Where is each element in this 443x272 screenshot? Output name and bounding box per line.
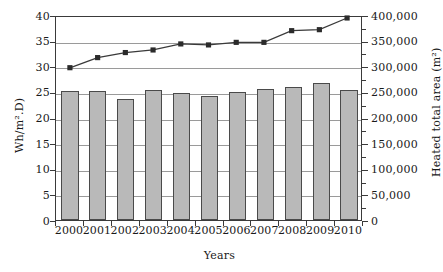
line-marker-2004 xyxy=(178,41,183,46)
right-minor-tick xyxy=(362,29,366,30)
right-tick-mark xyxy=(362,170,368,171)
x-tick-mark xyxy=(111,221,112,226)
left-tick-label-10: 10 xyxy=(14,164,50,175)
x-tick-mark xyxy=(167,221,168,226)
line-series xyxy=(56,17,361,220)
right-tick-label: 250,000 xyxy=(371,87,418,98)
right-minor-tick xyxy=(362,54,366,55)
right-tick-mark xyxy=(362,119,368,120)
right-minor-tick xyxy=(362,106,366,107)
right-tick-label: 150,000 xyxy=(371,139,418,150)
right-tick-mark xyxy=(362,16,368,17)
right-minor-tick xyxy=(362,208,366,209)
right-minor-tick xyxy=(362,157,366,158)
line-marker-2006 xyxy=(234,40,239,45)
left-tick-label-40: 40 xyxy=(14,11,50,22)
right-axis-title-text: Heated total area (m²) xyxy=(430,47,443,176)
left-tick-label-5: 5 xyxy=(14,190,50,201)
x-tick-mark xyxy=(278,221,279,226)
right-tick-mark xyxy=(362,93,368,94)
left-tick-label-0: 0 xyxy=(14,216,50,227)
right-minor-tick xyxy=(362,80,366,81)
line-marker-2010 xyxy=(345,15,350,20)
x-tick-mark xyxy=(306,221,307,226)
left-tick-label-15: 15 xyxy=(14,139,50,150)
right-axis-title: Heated total area (m²) xyxy=(430,47,443,176)
x-tick-mark xyxy=(334,221,335,226)
x-tick-mark xyxy=(83,221,84,226)
right-tick-label: 300,000 xyxy=(371,62,418,73)
right-tick-label: 100,000 xyxy=(371,164,418,175)
line-marker-2002 xyxy=(123,50,128,55)
left-tick-mark xyxy=(50,67,55,68)
line-marker-2009 xyxy=(317,27,322,32)
right-tick-label: 50,000 xyxy=(371,190,411,201)
left-tick-mark xyxy=(50,195,55,196)
x-tick-mark xyxy=(362,221,363,226)
right-tick-label: 350,000 xyxy=(371,36,418,47)
plot-area xyxy=(55,16,362,221)
line-marker-2000 xyxy=(67,65,72,70)
x-axis-title: Years xyxy=(0,249,439,262)
x-tick-mark xyxy=(223,221,224,226)
left-tick-mark xyxy=(50,16,55,17)
x-tick-mark xyxy=(195,221,196,226)
left-tick-mark xyxy=(50,144,55,145)
right-tick-mark xyxy=(362,144,368,145)
line-marker-2001 xyxy=(95,55,100,60)
left-tick-mark xyxy=(50,119,55,120)
line-marker-2003 xyxy=(150,47,155,52)
x-axis-title-text: Years xyxy=(204,249,235,262)
right-tick-label: 0 xyxy=(371,216,378,227)
x-tick-mark xyxy=(250,221,251,226)
right-minor-tick xyxy=(362,183,366,184)
right-minor-tick xyxy=(362,131,366,132)
left-tick-label-35: 35 xyxy=(14,36,50,47)
right-tick-mark xyxy=(362,42,368,43)
left-tick-mark xyxy=(50,93,55,94)
right-tick-label: 400,000 xyxy=(371,11,418,22)
x-tick-mark xyxy=(55,221,56,226)
left-tick-label-25: 25 xyxy=(14,87,50,98)
line-marker-2007 xyxy=(261,40,266,45)
right-tick-mark xyxy=(362,67,368,68)
left-tick-label-30: 30 xyxy=(14,62,50,73)
right-tick-mark xyxy=(362,195,368,196)
line-marker-2008 xyxy=(289,28,294,33)
cropped-caption-remnant xyxy=(0,0,439,5)
right-tick-label: 200,000 xyxy=(371,113,418,124)
left-tick-mark xyxy=(50,170,55,171)
left-tick-mark xyxy=(50,42,55,43)
left-tick-label-20: 20 xyxy=(14,113,50,124)
line-marker-2005 xyxy=(206,42,211,47)
x-tick-mark xyxy=(139,221,140,226)
x-tick-label-2010: 2010 xyxy=(328,225,368,236)
